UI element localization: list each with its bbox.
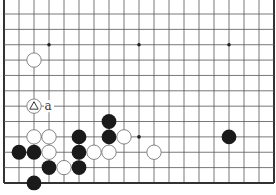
black-stone (27, 176, 42, 191)
white-stone (27, 130, 41, 144)
white-stone (117, 130, 131, 144)
black-stone (72, 129, 87, 144)
black-stone (72, 160, 87, 175)
star-point (227, 43, 231, 47)
white-stone (42, 145, 56, 159)
black-stone (42, 160, 57, 175)
white-stone (147, 145, 161, 159)
go-board: a (0, 0, 276, 195)
black-stone (72, 145, 87, 160)
white-stone (87, 145, 101, 159)
black-stone (27, 145, 42, 160)
white-stone (42, 130, 56, 144)
star-point (137, 135, 141, 139)
white-stone (102, 145, 116, 159)
black-stone (102, 114, 117, 129)
black-stone (102, 129, 117, 144)
white-stone (27, 53, 41, 67)
black-stone (12, 145, 27, 160)
point-label: a (44, 99, 51, 113)
point-labels: a (44, 99, 54, 113)
white-stone (27, 99, 41, 113)
black-stone (222, 129, 237, 144)
star-point (137, 43, 141, 47)
white-stone (57, 160, 71, 174)
star-point (47, 43, 51, 47)
